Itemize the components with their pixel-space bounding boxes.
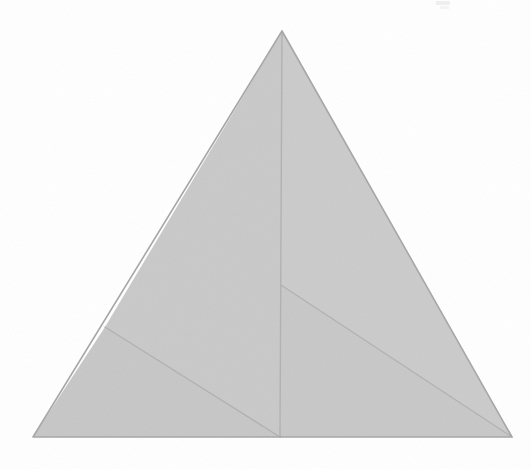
paper-grain-overlay (33, 31, 512, 437)
triangle-figure (0, 0, 531, 469)
figure-canvas (0, 0, 531, 469)
